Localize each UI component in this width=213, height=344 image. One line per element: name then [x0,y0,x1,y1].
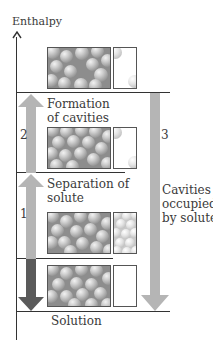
solute-box-cavities [113,127,137,169]
solution-label: Solution [51,314,102,328]
solute-box-solid [113,212,137,254]
step3-label-line2: occupied [162,197,213,211]
solvent-box-pure [47,212,111,254]
solvent-box-top [47,47,111,89]
step3-label-line1: Cavities [162,183,211,197]
step2-number: 2 [20,128,28,142]
step3-label-line3: by solute [162,211,213,225]
solute-box-empty [113,265,137,307]
y-axis [16,37,17,340]
step1-label-line2: solute [47,191,84,205]
solvent-box-solution [47,265,111,307]
axis-arrowhead-icon [12,31,22,39]
solute-box-top [113,47,137,89]
step1-label-line1: Separation of [47,177,129,191]
arrow-net-down-icon [18,259,46,311]
level-line-solution [17,311,170,312]
step2-label-line2: of cavities [47,111,109,125]
solvent-box-cavities [47,127,111,169]
step1-number: 1 [20,207,28,221]
axis-label: Enthalpy [12,15,62,29]
step3-number: 3 [161,128,169,142]
step2-label-line1: Formation [47,97,110,111]
